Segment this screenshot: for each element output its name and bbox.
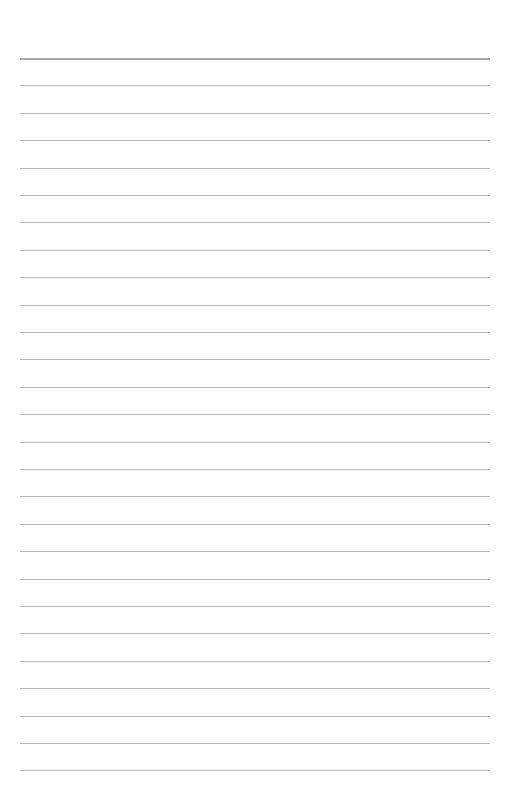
rule-line: [20, 743, 490, 744]
top-rule-line: [20, 58, 490, 60]
lined-paper-page: [0, 0, 512, 803]
rule-line: [20, 332, 490, 333]
rule-line: [20, 387, 490, 388]
rule-line: [20, 551, 490, 552]
rule-line: [20, 524, 490, 525]
rule-line: [20, 250, 490, 251]
rule-line: [20, 222, 490, 223]
rule-line: [20, 469, 490, 470]
rule-line: [20, 661, 490, 662]
rule-line: [20, 579, 490, 580]
rule-line: [20, 606, 490, 607]
rule-line: [20, 168, 490, 169]
rule-line: [20, 496, 490, 497]
rule-line: [20, 770, 490, 771]
rule-line: [20, 359, 490, 360]
rule-line: [20, 716, 490, 717]
rule-line: [20, 113, 490, 114]
rule-line: [20, 195, 490, 196]
rule-line: [20, 140, 490, 141]
rule-line: [20, 688, 490, 689]
rule-line: [20, 305, 490, 306]
rule-line: [20, 414, 490, 415]
rule-line: [20, 277, 490, 278]
rule-line: [20, 442, 490, 443]
rule-line: [20, 85, 490, 86]
rule-line: [20, 633, 490, 634]
